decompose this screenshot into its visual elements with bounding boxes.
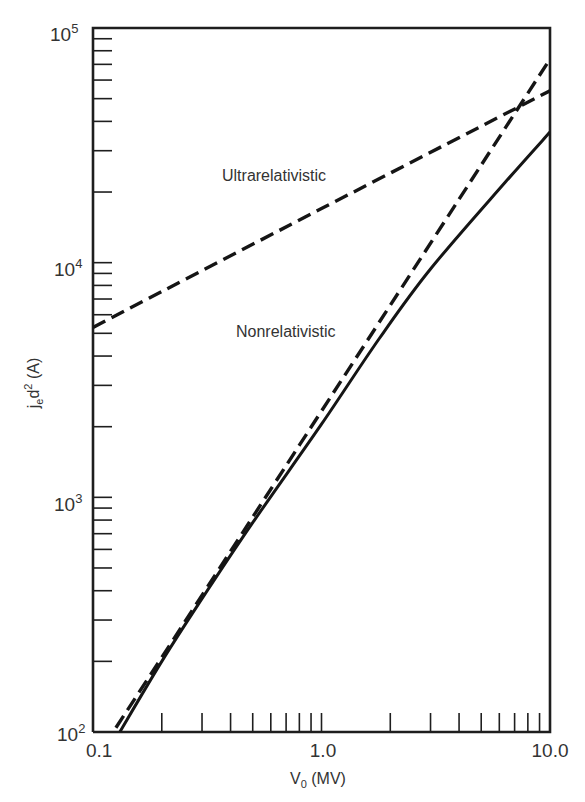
minor-ticks xyxy=(93,39,540,732)
plot-frame xyxy=(93,28,550,732)
series-layer xyxy=(93,59,550,763)
x-tick-label-0.1: 0.1 xyxy=(86,740,112,761)
annotation-nonrelativistic: Nonrelativistic xyxy=(236,323,336,340)
y-axis-title: jed2 (A) xyxy=(22,358,45,410)
nonrelativistic-line xyxy=(93,59,550,763)
y-tick-label-1e4: 104 xyxy=(54,256,82,280)
y-tick-label-1e5: 105 xyxy=(50,21,78,45)
x-tick-label-1.0: 1.0 xyxy=(310,740,336,761)
y-tick-label-1e2: 102 xyxy=(57,721,85,745)
x-axis-title: V0 (MV) xyxy=(290,770,346,790)
x-tick-label-10.0: 10.0 xyxy=(532,740,569,761)
annotation-ultrarelativistic: Ultrarelativistic xyxy=(222,167,326,184)
y-tick-label-1e3: 103 xyxy=(54,491,82,515)
relativistic-curve xyxy=(120,132,550,732)
chart: 105 104 103 102 0.1 1.0 10.0 V0 (MV) jed… xyxy=(0,0,585,802)
